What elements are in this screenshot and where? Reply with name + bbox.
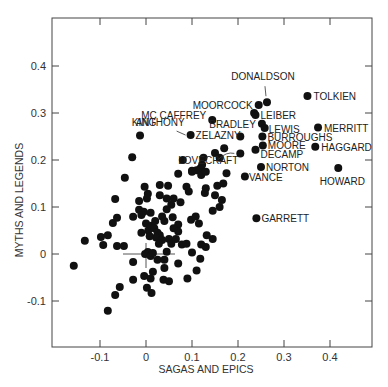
data-point: [185, 187, 193, 195]
data-point: [177, 198, 185, 206]
data-point: [188, 168, 196, 176]
data-point: [201, 189, 209, 197]
data-point: [209, 207, 217, 215]
data-point: [128, 153, 136, 161]
data-point: [163, 205, 171, 213]
point-label: HOWARD: [320, 176, 365, 187]
data-point: [160, 264, 168, 272]
data-point: [188, 249, 196, 257]
point-label: LOVECRAFT: [178, 155, 238, 166]
data-point: [202, 243, 210, 251]
labeled-data-point: [136, 132, 144, 140]
data-point: [156, 181, 164, 189]
data-point: [81, 237, 89, 245]
data-point: [211, 191, 219, 199]
y-tick-labels: -0.100.10.20.30.4: [27, 60, 46, 307]
y-tick-label: 0.3: [31, 107, 46, 119]
data-point: [146, 232, 154, 240]
data-point: [165, 277, 173, 285]
data-point: [149, 268, 157, 276]
data-point: [149, 249, 157, 257]
data-point: [116, 283, 124, 291]
data-point: [151, 217, 159, 225]
data-point: [113, 214, 121, 222]
data-point: [158, 212, 166, 220]
data-point: [99, 241, 107, 249]
data-point: [129, 276, 137, 284]
y-tick-label: -0.1: [27, 295, 46, 307]
point-label: TOLKIEN: [313, 91, 356, 102]
data-point: [172, 235, 180, 243]
data-point: [154, 256, 162, 264]
point-label: HAGGARD: [321, 142, 372, 153]
scatter-chart: -0.100.10.20.30.4 -0.100.10.20.30.4 SAGA…: [0, 0, 388, 387]
data-point: [174, 259, 182, 267]
data-point: [203, 231, 211, 239]
labeled-data-point: [251, 146, 259, 154]
data-point: [111, 195, 119, 203]
point-label: GARRETT: [261, 213, 309, 224]
labeled-data-point: [334, 164, 342, 172]
data-point: [155, 240, 163, 248]
data-point: [121, 174, 129, 182]
data-point: [220, 144, 228, 152]
data-point: [169, 213, 177, 221]
point-label: ZELAZNY: [196, 130, 241, 141]
data-point: [129, 258, 137, 266]
x-tick-label: 0.2: [230, 351, 245, 363]
y-tick-label: 0.1: [31, 201, 46, 213]
data-point: [174, 170, 182, 178]
y-tick-label: 0: [40, 248, 46, 260]
data-point: [104, 307, 112, 315]
data-point: [219, 180, 227, 188]
data-point: [223, 169, 231, 177]
labeled-data-point: [251, 111, 259, 119]
data-point: [164, 182, 172, 190]
data-point: [97, 233, 105, 241]
data-point: [111, 291, 119, 299]
point-label: DECAMP: [260, 149, 303, 160]
labeled-data-point: [311, 143, 319, 151]
data-point: [137, 229, 145, 237]
point-label: NORTON: [266, 162, 309, 173]
labeled-data-point: [255, 101, 263, 109]
labeled-data-point: [258, 133, 266, 141]
data-point: [183, 274, 191, 282]
data-point: [192, 212, 200, 220]
x-axis-title: SAGAS AND EPICS: [158, 363, 253, 375]
data-point: [137, 211, 145, 219]
x-tick-label: 0: [143, 351, 149, 363]
data-point: [70, 262, 78, 270]
y-tick-label: 0.4: [31, 60, 46, 72]
labeled-data-point: [187, 131, 195, 139]
data-point: [195, 219, 203, 227]
data-point: [196, 255, 204, 263]
x-tick-labels: -0.100.10.20.30.4: [91, 351, 338, 363]
labeled-data-point: [241, 172, 249, 180]
data-point: [143, 195, 151, 203]
point-label: BRADLEY: [209, 119, 256, 130]
x-tick-label: 0.1: [184, 351, 199, 363]
labeled-data-point: [252, 214, 260, 222]
data-point: [147, 209, 155, 217]
x-tick-label: 0.4: [322, 351, 337, 363]
data-point: [120, 242, 128, 250]
labeled-data-point: [257, 163, 265, 171]
labeled-data-point: [303, 92, 311, 100]
point-label: LEIBER: [260, 110, 296, 121]
data-point: [160, 256, 168, 264]
data-point: [193, 266, 201, 274]
data-point: [216, 203, 224, 211]
labeled-data-point: [263, 98, 271, 106]
point-label: ANTHONY: [136, 117, 185, 128]
x-tick-label: -0.1: [91, 351, 110, 363]
data-point: [148, 289, 156, 297]
y-tick-label: 0.2: [31, 154, 46, 166]
point-label: DONALDSON: [231, 71, 294, 82]
point-label: VANCE: [249, 172, 283, 183]
data-point: [202, 168, 210, 176]
data-point: [135, 197, 143, 205]
data-point: [113, 242, 121, 250]
y-axis-title: MYTHS AND LEGENDS: [13, 143, 25, 257]
data-point: [104, 231, 112, 239]
